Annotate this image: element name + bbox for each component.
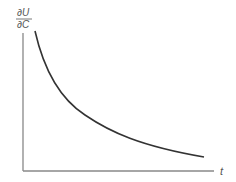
x-axis-label: t	[220, 165, 224, 177]
y-axis-label-numerator: ∂U	[17, 7, 30, 18]
chart: ∂U ∂C t	[0, 0, 236, 182]
y-axis-label-denominator: ∂C	[17, 19, 30, 30]
marginal-utility-curve	[35, 31, 204, 157]
